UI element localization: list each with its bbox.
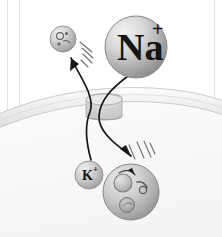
sodium-charge-label: + — [152, 18, 163, 40]
sodium-ion-sphere: Na + — [105, 16, 167, 78]
figure-canvas: Na + K + — [0, 0, 222, 237]
potassium-charge-label: + — [93, 164, 98, 174]
extracellular-vesicle — [50, 26, 76, 52]
cytoplasm-region — [0, 102, 222, 237]
potassium-ion-sphere: K + — [75, 161, 103, 189]
potassium-symbol-label: K — [82, 168, 93, 183]
ion-transport-figure: Sodium-potassium ion exchange across a c… — [0, 0, 222, 237]
intracellular-vesicle — [103, 164, 159, 220]
upper-motion-lines — [80, 42, 93, 67]
